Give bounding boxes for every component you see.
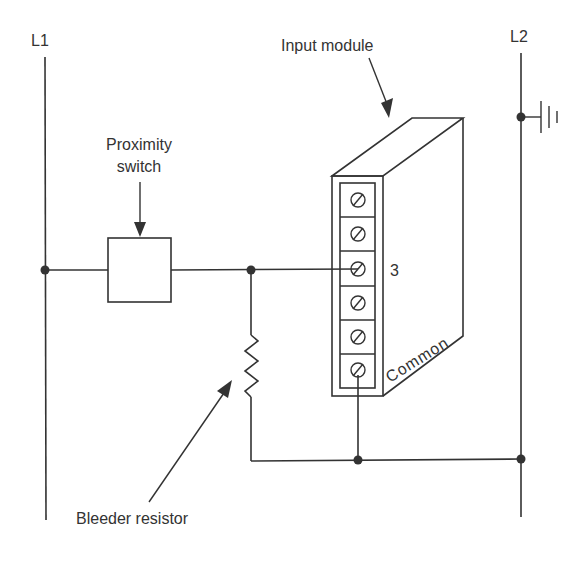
l1-label: L1 [31, 32, 49, 49]
input-module-arrow-icon [369, 58, 393, 118]
bleeder-resistor [245, 270, 258, 461]
ladder-diagram: L1 L2 Proximity switch Bleeder resistor [0, 0, 587, 563]
input-module-label: Input module [281, 37, 374, 54]
proximity-switch-label-line2: switch [117, 158, 161, 175]
rung-wire-right [171, 269, 358, 270]
ground-icon [517, 101, 558, 133]
l1-rail [45, 57, 46, 520]
common-label: Common [383, 334, 452, 386]
terminal-screw-1 [351, 193, 365, 207]
proximity-switch [108, 238, 171, 302]
common-return-wire [251, 459, 521, 461]
terminal-screw-4 [351, 296, 365, 310]
bleeder-resistor-label: Bleeder resistor [76, 510, 189, 527]
bleeder-arrow-icon [149, 380, 232, 502]
terminal-screw-6-common [351, 363, 365, 377]
proximity-switch-label-line1: Proximity [106, 136, 172, 153]
l2-label: L2 [510, 28, 528, 45]
terminal-screw-5 [351, 330, 365, 344]
proximity-arrow-icon [134, 182, 146, 237]
input-module [332, 118, 463, 396]
terminal-screw-2 [351, 227, 365, 241]
terminal-3-label: 3 [390, 262, 399, 279]
l2-junction-dot [517, 455, 526, 464]
